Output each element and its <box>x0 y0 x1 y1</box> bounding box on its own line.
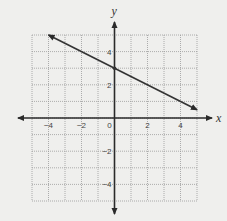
x-tick-label: −4 <box>44 121 54 130</box>
x-axis-label: x <box>215 111 222 125</box>
x-tick-label: 4 <box>178 121 183 130</box>
y-tick-label: 4 <box>107 48 112 57</box>
y-tick-label: 2 <box>107 81 112 90</box>
x-tick-label: 0 <box>107 121 112 130</box>
y-tick-label: −4 <box>102 180 112 189</box>
coordinate-plane: xy −4−202442−2−4 <box>0 0 227 221</box>
series-line <box>49 35 198 110</box>
x-tick-label: 2 <box>145 121 150 130</box>
y-axis-label: y <box>111 4 118 18</box>
y-tick-label: −2 <box>102 147 112 156</box>
x-tick-label: −2 <box>77 121 87 130</box>
line-point <box>113 66 117 70</box>
series <box>49 35 198 110</box>
